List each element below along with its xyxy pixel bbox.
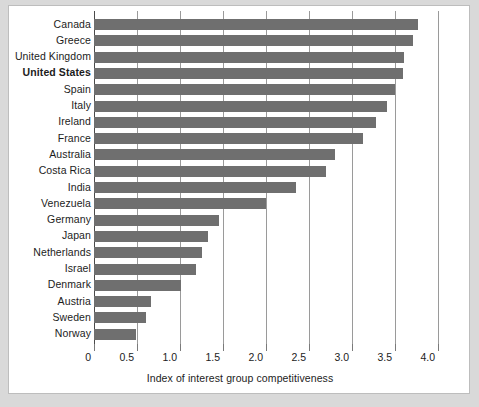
bar [94,215,219,226]
tick-label: 2.5 [291,351,309,363]
tick-label: 3.0 [334,351,352,363]
category-label: Greece [56,35,91,46]
category-label: Netherlands [33,247,91,258]
plot-area: CanadaGreeceUnited KingdomUnited StatesS… [9,6,471,395]
bar [94,35,413,46]
value-axis: 00.51.01.52.02.53.03.54.0 [94,344,471,374]
tick-mark [266,344,267,351]
tick-label: 1.5 [205,351,223,363]
category-label: Norway [55,328,91,339]
tick-label: 0.5 [119,351,137,363]
category-label: Sweden [52,312,91,323]
category-label: Austria [58,296,91,307]
category-axis-labels: CanadaGreeceUnited KingdomUnited StatesS… [9,6,91,346]
bar [94,198,266,209]
bar [94,133,363,144]
category-label: Israel [65,263,91,274]
category-label: Venezuela [41,198,91,209]
tick-label: 0 [85,351,94,363]
tick-mark [223,344,224,351]
bar [94,247,202,258]
tick-mark [395,344,396,351]
category-label: Spain [64,84,91,95]
bar [94,166,326,177]
category-label: United Kingdom [15,51,91,62]
x-axis-title: Index of interest group competitiveness [9,372,471,384]
tick-mark [180,344,181,351]
bar-series [94,6,471,346]
bar [94,19,418,30]
bar [94,84,395,95]
tick-label: 3.5 [377,351,395,363]
bar [94,329,136,340]
chart-panel: CanadaGreeceUnited KingdomUnited StatesS… [8,5,470,394]
bar [94,149,335,160]
category-label: United States [23,67,91,78]
tick-mark [309,344,310,351]
category-label: Australia [49,149,91,160]
bar [94,182,296,193]
bar [94,280,181,291]
tick-mark [438,344,439,351]
category-label: Japan [62,230,91,241]
category-label: India [68,182,91,193]
category-label: Ireland [58,116,91,127]
tick-label: 2.0 [248,351,266,363]
bar [94,264,196,275]
bar [94,52,404,63]
category-label: Germany [47,214,91,225]
chart-figure: CanadaGreeceUnited KingdomUnited StatesS… [0,0,479,407]
category-label: Costa Rica [39,165,91,176]
bar [94,117,376,128]
category-label: Canada [54,19,91,30]
category-label: France [58,133,91,144]
bar [94,312,146,323]
tick-mark [352,344,353,351]
tick-label: 4.0 [420,351,438,363]
bar [94,68,403,79]
bar [94,101,387,112]
bar [94,231,208,242]
tick-mark [137,344,138,351]
category-label: Denmark [48,279,91,290]
bar [94,296,151,307]
tick-mark [94,344,95,351]
category-label: Italy [71,100,91,111]
tick-label: 1.0 [162,351,180,363]
